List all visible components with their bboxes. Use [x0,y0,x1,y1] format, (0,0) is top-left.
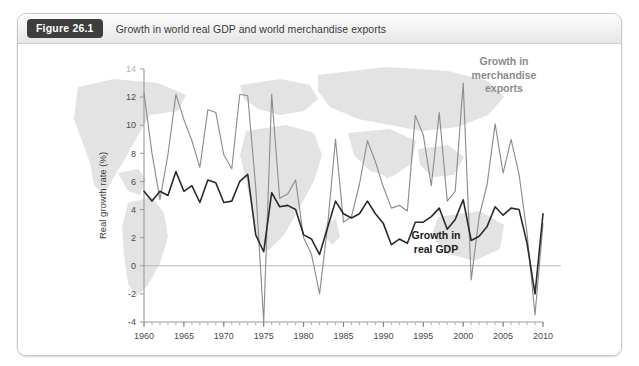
screenshot-root: Figure 26.1 Growth in world real GDP and… [0,0,639,366]
svg-text:8: 8 [131,149,136,159]
svg-text:1990: 1990 [373,331,393,341]
svg-text:1985: 1985 [333,331,353,341]
svg-text:6: 6 [131,177,136,187]
svg-text:1970: 1970 [214,331,234,341]
svg-text:exports: exports [485,82,523,94]
world-map-watermark [74,67,504,297]
svg-text:0: 0 [131,261,136,271]
svg-text:2000: 2000 [453,331,473,341]
figure-caption: Growth in world real GDP and world merch… [116,23,386,35]
x-axis-tick-labels: 1960196519701975198019851990199520002005… [134,331,553,341]
svg-text:14: 14 [126,64,136,74]
svg-text:12: 12 [126,92,136,102]
svg-text:1995: 1995 [413,331,433,341]
svg-text:Growth in: Growth in [412,229,461,241]
svg-text:-4: -4 [128,317,136,327]
svg-text:2005: 2005 [493,331,513,341]
chart-plot-area: -4-202468101214 196019651970197519801985… [18,45,621,356]
svg-text:real GDP: real GDP [414,243,458,255]
gdp-annotation: Growth inreal GDP [412,229,461,255]
series-line-exports [144,83,543,322]
x-axis-major-ticks [144,322,543,327]
svg-text:1960: 1960 [134,331,154,341]
svg-text:1975: 1975 [254,331,274,341]
svg-text:Growth in: Growth in [480,55,529,67]
figure-card: Figure 26.1 Growth in world real GDP and… [17,13,622,356]
svg-text:10: 10 [126,120,136,130]
line-chart: -4-202468101214 196019651970197519801985… [18,45,621,356]
svg-text:-2: -2 [128,289,136,299]
svg-text:1980: 1980 [294,331,314,341]
data-series-group [144,83,543,322]
figure-number-badge: Figure 26.1 [27,19,103,37]
svg-text:merchandise: merchandise [472,69,537,81]
svg-text:1965: 1965 [174,331,194,341]
svg-text:2010: 2010 [533,331,553,341]
y-axis-title: Real growth rate (%) [97,152,108,239]
svg-text:4: 4 [131,205,136,215]
svg-text:2: 2 [131,233,136,243]
figure-header: Figure 26.1 Growth in world real GDP and… [18,14,621,44]
